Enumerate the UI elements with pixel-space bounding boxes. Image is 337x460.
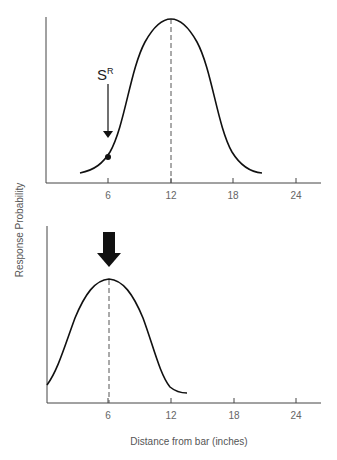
sr-arrow-head-icon: [103, 131, 113, 138]
top-panel: 6 12 18 24 SR: [46, 17, 321, 201]
top-tick-6: 6: [105, 190, 111, 201]
bottom-panel: 6 12 18 24 Distance from bar (inches): [47, 226, 321, 447]
bottom-tick-24: 24: [290, 410, 302, 421]
bold-arrow-shaft: [103, 232, 115, 254]
top-tick-12: 12: [165, 190, 177, 201]
bold-arrow-head-icon: [97, 253, 121, 267]
chart-canvas: Response Probability 6 12 18 24 SR 6: [0, 0, 337, 460]
sr-label: SR: [97, 66, 114, 83]
bottom-tick-18: 18: [228, 410, 240, 421]
top-tick-24: 24: [290, 190, 302, 201]
x-axis-label: Distance from bar (inches): [130, 436, 247, 447]
sr-point-marker: [105, 154, 111, 160]
bottom-tick-12: 12: [165, 410, 177, 421]
bottom-tick-6: 6: [105, 410, 111, 421]
y-axis-label: Response Probability: [14, 183, 25, 278]
top-tick-18: 18: [227, 190, 239, 201]
bottom-gradient-curve: [47, 279, 187, 393]
